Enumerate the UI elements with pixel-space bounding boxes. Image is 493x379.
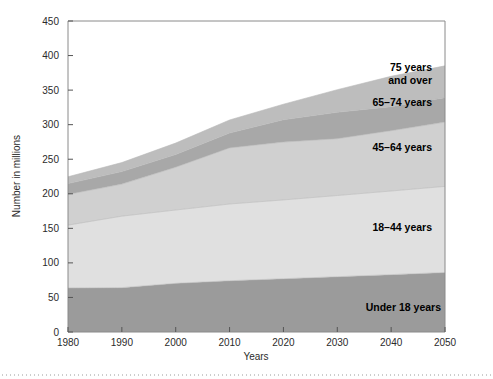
y-tick-label: 50 [48,292,60,303]
y-tick-label: 350 [42,85,59,96]
y-tick-label: 100 [42,257,59,268]
series-label-under-18: Under 18 years [366,301,441,313]
series-label-65-74: 65–74 years [372,96,432,108]
x-tick-label: 2030 [326,337,349,348]
x-tick-label: 1980 [57,337,80,348]
x-tick-label: 2010 [218,337,241,348]
y-tick-label: 300 [42,119,59,130]
series-label-75-plus-line1: 75 years [390,61,432,73]
series-label-18-44: 18–44 years [372,221,432,233]
x-tick-label: 2050 [434,337,457,348]
series-label-75-plus-line2: and over [388,74,432,86]
y-tick-label: 150 [42,223,59,234]
y-tick-label: 400 [42,50,59,61]
x-tick-label: 2040 [380,337,403,348]
x-tick-label: 2020 [272,337,295,348]
chart-figure: 050100150200250300350400450 198019902000… [0,0,493,379]
y-tick-label: 250 [42,154,59,165]
series-label-45-64: 45–64 years [372,141,432,153]
y-tick-label: 0 [53,327,59,338]
y-axis-title: Number in millions [11,135,22,217]
x-axis-title: Years [243,351,268,362]
y-tick-label: 200 [42,188,59,199]
stacked-area-chart: 050100150200250300350400450 198019902000… [0,0,493,379]
y-tick-label: 450 [42,16,59,27]
x-tick-label: 1990 [111,337,134,348]
x-tick-label: 2000 [165,337,188,348]
